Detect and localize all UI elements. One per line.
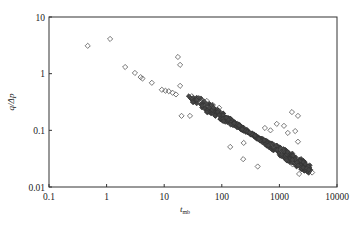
data-point-diamond <box>281 123 286 128</box>
x-tick-label: 0.1 <box>43 192 55 202</box>
data-point-diamond <box>285 130 290 135</box>
x-tick-label: 100 <box>215 192 230 202</box>
y-tick-label: 0.1 <box>33 126 45 136</box>
data-point-diamond <box>274 121 279 126</box>
x-tick-label: 1 <box>104 192 109 202</box>
x-tick-label: 10000 <box>325 192 349 202</box>
x-tick-label: 10 <box>159 192 169 202</box>
y-tick-label: 1 <box>40 69 45 79</box>
data-point-diamond <box>262 125 267 130</box>
data-point-diamond <box>149 80 154 85</box>
data-point-diamond <box>228 144 233 149</box>
data-point-diamond <box>178 83 183 88</box>
data-point-diamond <box>268 128 273 133</box>
data-point-diamond <box>175 54 180 59</box>
data-point-diamond <box>85 43 90 48</box>
data-point-diamond <box>241 140 246 145</box>
data-point-diamond <box>295 139 300 144</box>
x-tick-label: 1000 <box>270 192 289 202</box>
y-tick-label: 10 <box>36 13 46 23</box>
data-point-diamond <box>297 171 302 176</box>
data-point-diamond <box>295 113 300 118</box>
data-point-diamond <box>255 164 260 169</box>
data-point-diamond <box>178 62 183 67</box>
data-point-diamond <box>241 157 246 162</box>
data-point-diamond <box>289 109 294 114</box>
data-point-diamond <box>173 92 178 97</box>
data-points <box>85 36 315 176</box>
y-axis-label: q/Δp <box>6 93 16 110</box>
data-point-diamond <box>132 70 137 75</box>
x-axis-label: tmb <box>180 204 190 215</box>
scatter-chart: 0.11101001000100000.010.1110 q/Δp tmb <box>0 0 363 234</box>
y-tick-label: 0.01 <box>28 183 45 193</box>
data-point-diamond <box>187 113 192 118</box>
data-point-diamond <box>293 128 298 133</box>
data-point-diamond <box>179 113 184 118</box>
data-point-diamond <box>123 64 128 69</box>
data-point-diamond <box>107 36 112 41</box>
